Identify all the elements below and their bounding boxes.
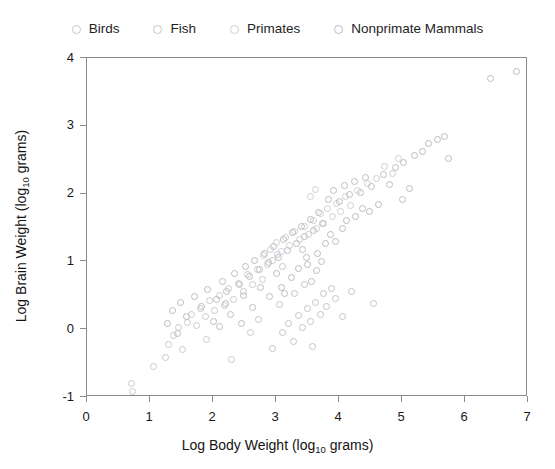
data-point <box>211 307 218 314</box>
data-point <box>400 159 407 166</box>
data-point <box>246 273 253 280</box>
data-points-layer <box>87 58 528 397</box>
data-point <box>373 175 380 182</box>
data-point <box>256 266 263 273</box>
data-point <box>339 225 346 232</box>
y-axis-tick-label: 3 <box>44 118 74 131</box>
data-point <box>324 205 331 212</box>
data-point <box>257 284 264 291</box>
data-point <box>434 136 441 143</box>
data-point <box>307 216 314 223</box>
data-point <box>341 182 348 189</box>
data-point <box>177 299 184 306</box>
data-point <box>238 320 245 327</box>
y-axis-tick <box>80 125 86 126</box>
legend-item-primates[interactable]: Primates <box>230 22 300 36</box>
data-point <box>295 312 302 319</box>
data-point <box>198 303 205 310</box>
data-point <box>228 356 235 363</box>
data-point <box>357 189 364 196</box>
data-point <box>227 311 234 318</box>
data-point <box>368 183 375 190</box>
y-axis-title: Log Brain Weight (log10 grams) <box>13 76 29 376</box>
x-axis-tick <box>149 396 150 402</box>
data-point <box>291 290 298 297</box>
y-axis-title-subscript: 10 <box>20 177 31 188</box>
data-point <box>392 164 399 171</box>
data-point <box>319 220 326 227</box>
x-axis-tick <box>338 396 339 402</box>
legend: BirdsFishPrimatesNonprimate Mammals <box>0 16 555 42</box>
y-axis-tick-label: 2 <box>44 186 74 199</box>
y-axis-tick <box>80 396 86 397</box>
x-axis-tick-label: 1 <box>134 410 164 423</box>
data-point <box>406 185 413 192</box>
data-point <box>362 174 369 181</box>
y-axis-tick-label: 1 <box>44 254 74 267</box>
x-axis-tick-label: 0 <box>71 410 101 423</box>
data-point <box>222 300 229 307</box>
data-point <box>231 270 238 277</box>
data-point <box>304 305 311 312</box>
x-axis-title-suffix: grams) <box>326 437 373 453</box>
data-point <box>179 346 186 353</box>
data-point <box>320 290 327 297</box>
data-point <box>230 296 237 303</box>
data-point <box>204 286 211 293</box>
data-point <box>284 247 291 254</box>
data-point <box>295 265 302 272</box>
data-point <box>343 217 350 224</box>
data-point <box>399 196 406 203</box>
data-point <box>425 140 432 147</box>
data-point <box>380 171 387 178</box>
legend-item-nonprimate-mammals[interactable]: Nonprimate Mammals <box>334 22 483 36</box>
data-point <box>317 311 324 318</box>
data-point <box>301 281 308 288</box>
data-point <box>174 330 181 337</box>
data-point <box>273 270 280 277</box>
data-point <box>441 133 448 140</box>
legend-item-birds[interactable]: Birds <box>72 22 120 36</box>
x-axis-tick-label: 3 <box>260 410 290 423</box>
data-point <box>240 292 247 299</box>
legend-marker-icon <box>153 25 162 34</box>
data-point <box>304 261 311 268</box>
data-point <box>327 231 334 238</box>
data-point <box>128 380 135 387</box>
y-axis-tick <box>80 193 86 194</box>
data-point <box>129 388 136 395</box>
data-point <box>332 295 339 302</box>
data-point <box>309 343 316 350</box>
x-axis-tick <box>464 396 465 402</box>
data-point <box>411 152 418 159</box>
data-point <box>299 246 306 253</box>
data-point <box>298 223 305 230</box>
data-point <box>281 290 288 297</box>
data-point <box>261 250 268 257</box>
data-point <box>219 278 226 285</box>
data-point <box>337 208 344 215</box>
data-point <box>332 238 339 245</box>
y-axis-tick-label: -1 <box>44 390 74 403</box>
x-axis-tick-label: 4 <box>323 410 353 423</box>
data-point <box>275 254 282 261</box>
data-point <box>203 336 210 343</box>
data-point <box>352 213 359 220</box>
data-point <box>318 258 325 265</box>
data-point <box>313 267 320 274</box>
x-axis-tick-label: 2 <box>197 410 227 423</box>
data-point <box>299 324 306 331</box>
y-axis-tick-label: 0 <box>44 322 74 335</box>
data-point <box>325 196 332 203</box>
legend-label: Primates <box>247 22 300 36</box>
data-point <box>339 313 346 320</box>
x-axis-title-subscript: 10 <box>315 444 326 455</box>
data-point <box>210 318 217 325</box>
data-point <box>276 301 283 308</box>
data-point <box>513 68 520 75</box>
x-axis-tick-label: 5 <box>386 410 416 423</box>
data-point <box>216 323 223 330</box>
data-point <box>279 263 286 270</box>
data-point <box>351 178 358 185</box>
legend-item-fish[interactable]: Fish <box>153 22 196 36</box>
